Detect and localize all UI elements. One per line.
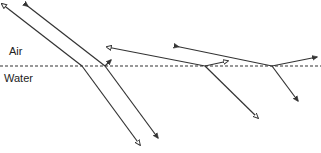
ray-4 <box>175 46 317 101</box>
ray-4-reflected <box>272 57 317 66</box>
ray-2-incident <box>25 4 105 66</box>
ray-3-incident <box>107 47 205 66</box>
refraction-diagram <box>0 0 321 153</box>
water-label: Water <box>4 72 33 84</box>
ray-2-reflected <box>105 60 111 66</box>
ray-4-refracted <box>272 66 298 101</box>
ray-3 <box>107 47 258 118</box>
ray-3-reflected <box>205 61 228 66</box>
ray-3-refracted <box>205 66 258 118</box>
ray-2 <box>25 4 158 138</box>
air-label: Air <box>9 45 22 57</box>
ray-2-refracted <box>105 66 158 138</box>
ray-1-refracted <box>82 66 140 145</box>
